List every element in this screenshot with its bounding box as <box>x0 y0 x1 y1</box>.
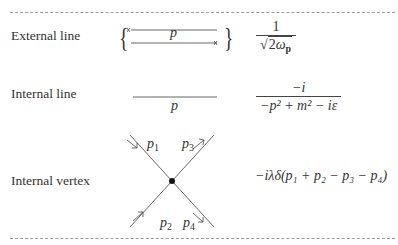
sqrt-sign: √ <box>260 37 268 52</box>
p4-label: p4 <box>183 215 195 232</box>
p3-label: p3 <box>182 136 194 153</box>
omega-sub: p <box>286 43 292 54</box>
internal-line-propagator <box>133 96 223 100</box>
internal-denominator: −p² + m² − iε <box>256 97 341 115</box>
internal-momentum-label: p <box>171 98 178 114</box>
external-line-factor: 1 √2ωp <box>256 19 296 58</box>
brace-close: } <box>224 22 233 54</box>
p1-label: p1 <box>147 136 159 153</box>
external-denominator: √2ωp <box>256 36 296 58</box>
external-numerator: 1 <box>269 19 284 35</box>
p2-label: p2 <box>160 215 172 232</box>
external-momentum-label: p <box>170 25 177 41</box>
internal-line-factor: −i −p² + m² − iε <box>256 80 341 115</box>
vertex-factor: −iλδ(p₁ + p₂ − p₃ − p₄) <box>255 168 387 184</box>
vertex-diagram <box>130 135 230 235</box>
internal-vertex-label: Internal vertex <box>11 173 90 189</box>
internal-numerator: −i <box>288 80 309 96</box>
internal-line-label: Internal line <box>11 86 77 102</box>
top-divider <box>10 12 395 13</box>
external-line-label: External line <box>11 28 80 44</box>
bottom-divider <box>10 238 395 239</box>
omega: ω <box>276 37 286 52</box>
